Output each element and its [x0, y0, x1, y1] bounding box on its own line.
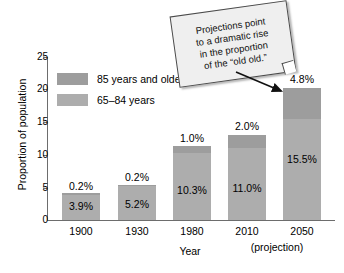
bar-in-label-1930: 5.2% [118, 199, 156, 210]
bar-group-1900[interactable]: 0.2% 3.9% [62, 193, 100, 220]
x-axis-line [47, 220, 335, 221]
x-label-2050: 2050 [272, 226, 332, 237]
legend-swatch-65to84 [57, 94, 88, 106]
legend: 85 years and older 65–84 years [57, 72, 184, 114]
bar-group-2010[interactable]: 2.0% 11.0% [228, 135, 266, 220]
bar-group-1930[interactable]: 0.2% 5.2% [118, 185, 156, 220]
bar-in-label-2010: 11.0% [228, 183, 266, 194]
x-label-1900: 1900 [51, 226, 111, 237]
chart-container: 25 20 15 10 5 0 Proportion of population… [0, 0, 344, 273]
y-axis-title: Proportion of population [17, 60, 28, 210]
bar-segment-85plus-2010 [228, 135, 266, 148]
bar-top-label-1930: 0.2% [107, 172, 167, 183]
legend-label-65to84: 65–84 years [97, 95, 155, 106]
callout-text: Projections point to a dramatic rise in … [171, 1, 296, 86]
legend-swatch-85plus [57, 73, 88, 85]
bar-top-label-1980: 1.0% [162, 133, 222, 144]
bar-segment-65to84-2050 [283, 119, 321, 220]
bar-top-label-1900: 0.2% [51, 181, 111, 192]
bar-group-1980[interactable]: 1.0% 10.3% [173, 146, 211, 220]
bar-in-label-2050: 15.5% [283, 154, 321, 165]
x-label-1930: 1930 [107, 226, 167, 237]
x-label-1980: 1980 [162, 226, 222, 237]
callout-box: Projections point to a dramatic rise in … [170, 0, 297, 88]
legend-item-65to84[interactable]: 65–84 years [57, 93, 184, 107]
x-axis-title: Year [155, 246, 225, 257]
bar-in-label-1900: 3.9% [62, 201, 100, 212]
projection-note: (projection) [232, 242, 322, 253]
legend-item-85plus[interactable]: 85 years and older [57, 72, 184, 86]
y-tick-label-0: 0 [22, 215, 48, 225]
bar-in-label-1980: 10.3% [173, 185, 211, 196]
x-label-2010: 2010 [217, 226, 277, 237]
bar-group-2050[interactable]: 4.8% 15.5% [283, 88, 321, 220]
projection-callout: Projections point to a dramatic rise in … [168, 2, 308, 97]
bar-top-label-2010: 2.0% [217, 121, 277, 132]
